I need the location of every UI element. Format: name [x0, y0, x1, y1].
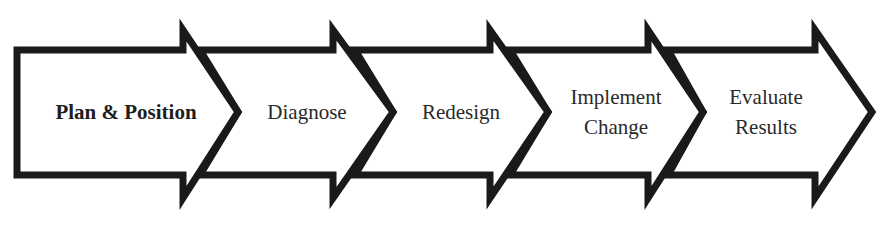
step-label-diagnose: Diagnose	[267, 97, 346, 127]
step-label-line1: Evaluate	[729, 82, 802, 112]
step-label-line1: Implement	[571, 82, 662, 112]
step-label-implement-change: Implement Change	[571, 82, 662, 142]
step-label-redesign: Redesign	[422, 97, 500, 127]
step-label-plan-position: Plan & Position	[55, 97, 196, 127]
step-label-line2: Results	[729, 112, 802, 142]
step-label-line2: Change	[571, 112, 662, 142]
step-label-evaluate-results: Evaluate Results	[729, 82, 802, 142]
